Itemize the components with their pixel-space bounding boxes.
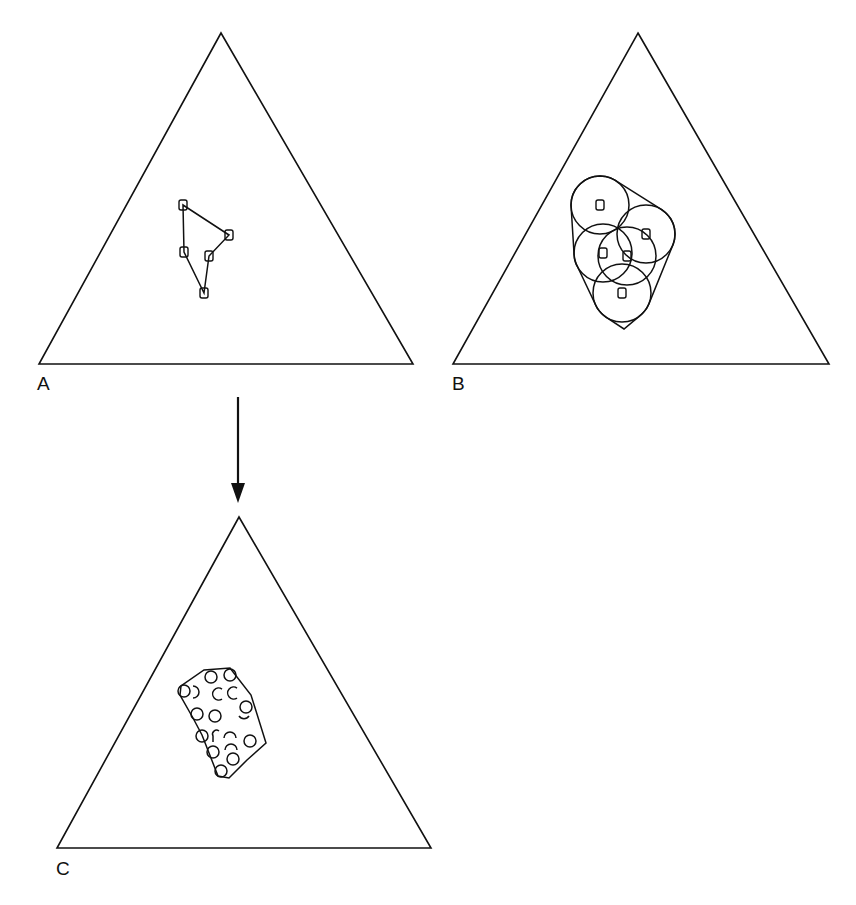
feasible-region-c	[180, 668, 266, 778]
sample-point	[240, 701, 252, 713]
arrow-down-icon	[231, 483, 245, 503]
figure-canvas: A B C	[0, 0, 856, 905]
data-point-marker	[618, 288, 626, 298]
sample-point-partial	[193, 686, 199, 698]
sample-point-partial	[224, 732, 236, 738]
panel-a: A	[37, 33, 413, 394]
uncertainty-circle	[593, 264, 651, 322]
sample-point	[191, 708, 203, 720]
simplex-triangle-c	[57, 517, 431, 848]
sample-point	[209, 710, 221, 722]
panel-label-a: A	[37, 373, 50, 394]
panel-label-c: C	[56, 858, 70, 879]
data-point-marker	[596, 200, 604, 210]
sample-point	[205, 671, 217, 683]
sample-point-partial	[213, 730, 219, 742]
sample-point-partial	[213, 688, 222, 700]
sample-point	[227, 753, 239, 765]
sample-point-partial	[228, 687, 237, 699]
uncertainty-circles-b	[571, 176, 675, 322]
panel-label-b: B	[452, 373, 465, 394]
panel-b: B	[452, 33, 829, 394]
panel-c: C	[56, 517, 431, 879]
convex-hull-a	[183, 205, 229, 293]
sample-point	[224, 669, 236, 681]
transform-arrow	[231, 397, 245, 503]
sample-point-partial	[239, 716, 249, 719]
data-points-b	[596, 200, 650, 298]
simplex-triangle-a	[39, 33, 413, 364]
sample-point	[244, 735, 256, 747]
data-point-marker	[599, 248, 607, 258]
uncertainty-circle	[571, 176, 629, 234]
sample-point-partial	[225, 744, 237, 750]
